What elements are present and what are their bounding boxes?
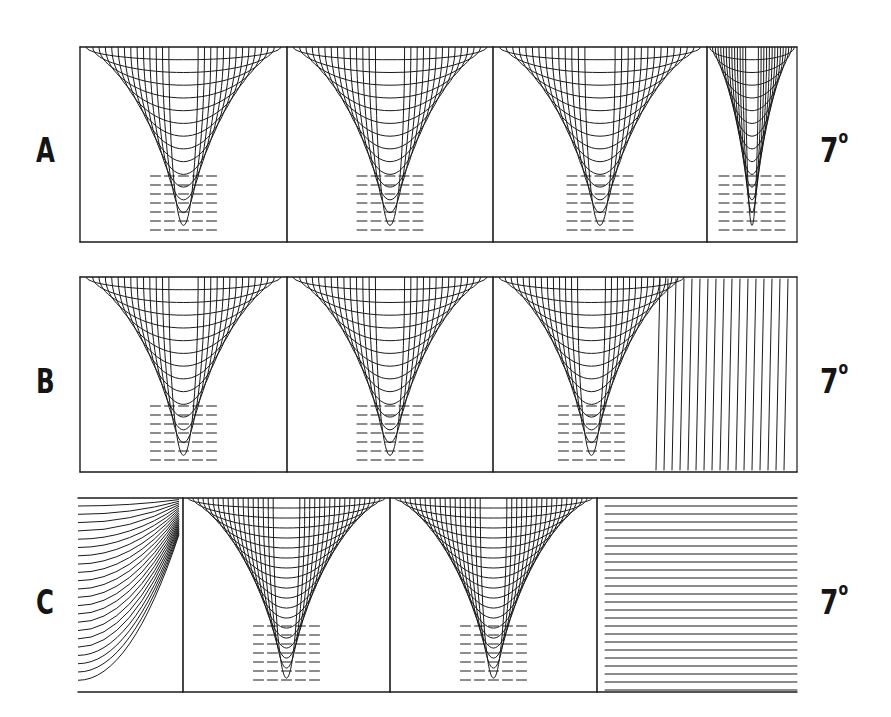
panel-label-b: B bbox=[36, 361, 55, 401]
field-line bbox=[293, 47, 486, 60]
field-line bbox=[78, 526, 179, 639]
vertical-field-line bbox=[768, 279, 772, 470]
field-line bbox=[357, 47, 424, 187]
vertical-field-line bbox=[760, 279, 764, 470]
field-line bbox=[86, 277, 280, 290]
angle-value: 7 bbox=[820, 582, 838, 622]
vertical-field-line bbox=[680, 279, 684, 470]
field-line bbox=[357, 277, 424, 417]
angle-label-b: 7o bbox=[820, 361, 848, 401]
field-line bbox=[395, 498, 592, 508]
angle-label-a: 7o bbox=[820, 130, 848, 170]
field-line bbox=[565, 47, 635, 187]
field-line bbox=[710, 47, 794, 60]
field-line bbox=[293, 277, 486, 290]
panel-label-c: C bbox=[36, 582, 54, 622]
field-line bbox=[78, 521, 179, 614]
angle-label-c: 7o bbox=[820, 582, 848, 622]
field-line bbox=[445, 498, 542, 608]
vertical-field-line bbox=[784, 279, 788, 470]
director-field-figure bbox=[0, 0, 891, 717]
field-line bbox=[124, 47, 242, 136]
panel-label-a: A bbox=[36, 130, 55, 170]
vertical-field-line bbox=[712, 279, 716, 470]
vertical-field-line bbox=[744, 279, 748, 470]
field-line bbox=[435, 498, 552, 588]
degree-symbol: o bbox=[838, 357, 848, 378]
angle-value: 7 bbox=[820, 361, 838, 401]
vertical-field-line bbox=[688, 279, 692, 470]
vertical-field-line bbox=[664, 279, 668, 470]
vertical-field-line bbox=[776, 279, 780, 470]
vertical-field-line bbox=[736, 279, 740, 470]
vertical-field-line bbox=[672, 279, 676, 470]
vertical-field-line bbox=[696, 279, 700, 470]
field-line bbox=[150, 277, 217, 417]
field-line bbox=[86, 47, 280, 60]
field-line bbox=[150, 47, 217, 187]
field-line bbox=[78, 533, 179, 672]
vertical-field-line bbox=[728, 279, 732, 470]
angle-value: 7 bbox=[820, 130, 838, 170]
field-line bbox=[78, 535, 179, 681]
vertical-field-line bbox=[752, 279, 756, 470]
field-line bbox=[539, 47, 661, 136]
field-line bbox=[188, 498, 385, 508]
field-line bbox=[331, 47, 449, 136]
field-line bbox=[124, 277, 242, 366]
field-line bbox=[560, 277, 624, 417]
vertical-field-line bbox=[704, 279, 708, 470]
vertical-field-line bbox=[656, 279, 660, 470]
field-line bbox=[331, 277, 449, 366]
field-line bbox=[500, 47, 701, 60]
vertical-field-line bbox=[720, 279, 724, 470]
field-line bbox=[499, 277, 684, 290]
field-line bbox=[726, 47, 777, 136]
field-line bbox=[238, 498, 335, 608]
degree-symbol: o bbox=[838, 126, 848, 147]
field-line bbox=[535, 277, 647, 366]
field-line bbox=[228, 498, 345, 588]
degree-symbol: o bbox=[838, 578, 848, 599]
